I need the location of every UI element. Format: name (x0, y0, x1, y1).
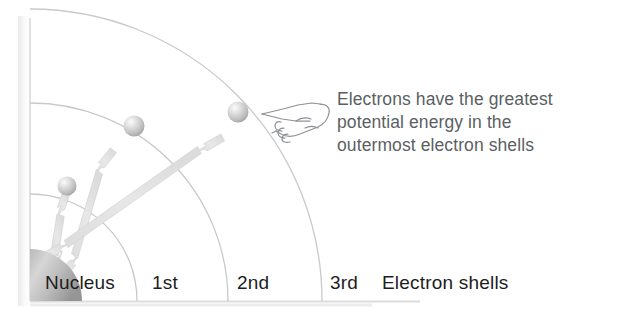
electron-shell-3 (228, 102, 249, 123)
electron-shell-2 (124, 116, 145, 137)
electron-shell-figure: Electrons have the greatest potential en… (0, 0, 625, 319)
callout-line-1: Electrons have the greatest (337, 88, 607, 111)
electron-shell-1 (58, 177, 77, 196)
label-shell-3: 3rd (330, 272, 358, 294)
label-shell-2: 2nd (237, 272, 269, 294)
shell-arc-3 (30, 9, 322, 301)
callout-text: Electrons have the greatest potential en… (337, 88, 607, 157)
callout-line-2: potential energy in the (337, 111, 607, 134)
label-shell-1: 1st (152, 272, 178, 294)
label-electron-shells: Electron shells (382, 272, 509, 294)
label-nucleus: Nucleus (45, 272, 115, 294)
callout-line-3: outermost electron shells (337, 134, 607, 157)
